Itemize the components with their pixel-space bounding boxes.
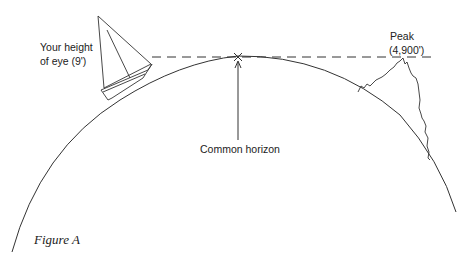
horizon-diagram — [0, 0, 457, 254]
horizon-arrow — [235, 61, 241, 140]
horizon-label: Common horizon — [200, 143, 280, 156]
observer-label-line1: Your height — [40, 41, 93, 54]
peak-label-line2: (4,900') — [389, 44, 424, 57]
peak-label-line1: Peak — [390, 30, 414, 43]
sailboat-icon — [98, 16, 152, 100]
mountain-peak — [358, 58, 430, 160]
observer-label-line2: of eye (9') — [40, 55, 86, 68]
figure-caption: Figure A — [34, 232, 80, 248]
